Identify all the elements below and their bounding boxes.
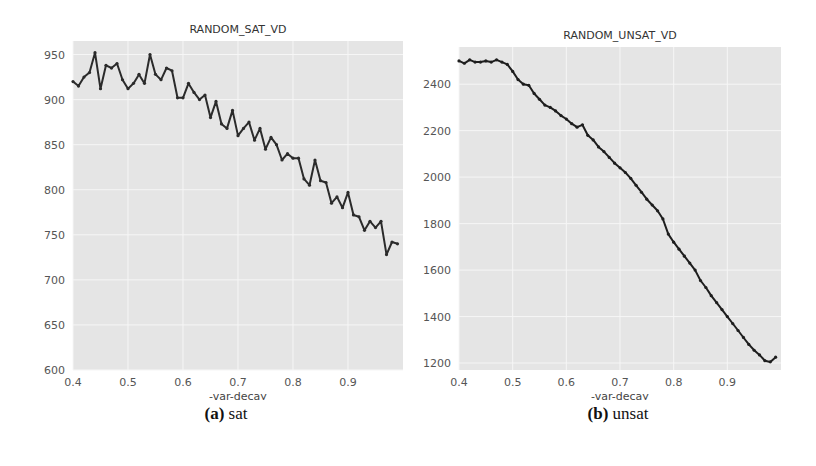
data-point [704,286,707,289]
chart-title: RANDOM_SAT_VD [189,23,286,36]
data-point [463,62,466,65]
x-tick-label: 0.7 [611,376,629,389]
data-point [192,91,195,94]
data-point [352,213,355,216]
data-point [747,343,750,346]
data-point [88,71,91,74]
data-point [457,59,460,62]
line-chart-unsat: RANDOM_UNSAT_VD0.40.50.60.70.80.91200140… [408,0,816,400]
data-point [115,62,118,65]
data-point [677,248,680,251]
data-point [269,136,272,139]
caption-a: (a) sat [126,404,326,424]
y-tick-label: 1600 [423,264,451,277]
data-point [667,232,670,235]
x-tick-label: 0.7 [229,376,247,389]
data-point [726,315,729,318]
data-point [159,78,162,81]
caption-b-label: (b) [588,404,609,423]
data-point [699,279,702,282]
data-point [516,78,519,81]
y-tick-label: 850 [44,139,65,152]
data-point [121,78,124,81]
y-tick-label: 1200 [423,357,451,370]
x-axis-label: -var-decay [591,390,649,400]
data-point [774,356,777,359]
caption-a-label: (a) [205,404,225,423]
y-tick-label: 2400 [423,78,451,91]
data-point [656,209,659,212]
data-point [565,117,568,120]
data-point [736,329,739,332]
data-point [170,69,173,72]
data-point [187,82,190,85]
data-point [742,336,745,339]
data-point [586,134,589,137]
data-point [390,240,393,243]
data-point [258,127,261,130]
data-point [220,122,223,125]
data-point [214,100,217,103]
x-tick-label: 0.9 [339,376,357,389]
y-tick-label: 2000 [423,171,451,184]
data-point [753,349,756,352]
data-point [533,92,536,95]
data-point [683,255,686,258]
x-axis-label: -var-decay [209,390,267,400]
data-point [154,73,157,76]
y-tick-label: 950 [44,49,65,62]
data-point [635,184,638,187]
data-point [253,139,256,142]
data-point [126,87,129,90]
data-point [575,126,578,129]
data-point [176,96,179,99]
x-tick-label: 0.5 [504,376,522,389]
data-point [236,134,239,137]
data-point [538,98,541,101]
data-point [710,294,713,297]
data-point [280,158,283,161]
data-point [335,195,338,198]
data-point [592,138,595,141]
y-tick-label: 600 [44,364,65,377]
data-point [247,121,250,124]
data-point [71,80,74,83]
chart-panel-sat: RANDOM_SAT_VD0.40.50.60.70.80.9600650700… [0,0,408,466]
data-point [385,253,388,256]
data-point [148,53,151,56]
data-point [291,157,294,160]
data-point [522,83,525,86]
data-point [624,171,627,174]
data-point [363,229,366,232]
data-point [242,127,245,130]
data-point [341,206,344,209]
data-point [225,127,228,130]
data-point [506,63,509,66]
data-point [209,116,212,119]
y-tick-label: 1400 [423,311,451,324]
data-point [231,109,234,112]
data-point [104,64,107,67]
data-point [490,61,493,64]
data-point [203,93,206,96]
data-point [275,143,278,146]
data-point [330,202,333,205]
data-point [500,61,503,64]
data-point [602,150,605,153]
y-tick-label: 650 [44,319,65,332]
data-point [165,66,168,69]
data-point [474,61,477,64]
data-point [543,103,546,106]
data-point [82,75,85,78]
data-point [479,61,482,64]
y-tick-label: 1800 [423,218,451,231]
data-point [110,66,113,69]
caption-b-text: unsat [613,404,649,423]
y-tick-label: 2200 [423,125,451,138]
data-point [597,145,600,148]
data-point [93,51,96,54]
data-point [132,82,135,85]
y-tick-label: 750 [44,229,65,242]
data-point [549,106,552,109]
caption-a-text: sat [229,404,248,423]
